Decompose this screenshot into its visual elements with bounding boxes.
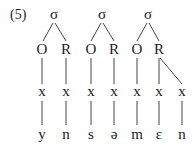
- timing-slot: x: [62, 83, 70, 99]
- syllable-branches: [43, 23, 159, 41]
- timing-slot: x: [155, 83, 163, 99]
- syllable-node-1: σ: [50, 6, 58, 22]
- segment: s: [88, 126, 94, 142]
- rime-node-3: R: [154, 41, 164, 57]
- segment: ɛ: [156, 126, 162, 142]
- slot-to-segment-lines: [42, 101, 182, 125]
- timing-slot: x: [133, 83, 141, 99]
- timing-slot: x: [178, 83, 186, 99]
- rime-node-2: R: [109, 41, 119, 57]
- segment: n: [62, 126, 70, 142]
- segment: n: [178, 126, 186, 142]
- onset-node-2: O: [86, 41, 97, 57]
- onset-node-3: O: [132, 41, 143, 57]
- segment: y: [38, 126, 46, 142]
- node-to-slot-lines: [42, 58, 182, 84]
- timing-slot: x: [38, 83, 46, 99]
- onset-node-1: O: [37, 41, 48, 57]
- example-number: (5): [10, 7, 27, 23]
- timing-slot: x: [87, 83, 95, 99]
- segment: m: [131, 126, 143, 142]
- rime-node-1: R: [61, 41, 71, 57]
- syllable-tree-diagram: (5) σ σ σ O R O R O R x x x x x x x: [0, 0, 192, 148]
- timing-slot: x: [110, 83, 118, 99]
- syllable-node-2: σ: [98, 6, 106, 22]
- segment: ə: [111, 126, 118, 142]
- syllable-node-3: σ: [144, 6, 152, 22]
